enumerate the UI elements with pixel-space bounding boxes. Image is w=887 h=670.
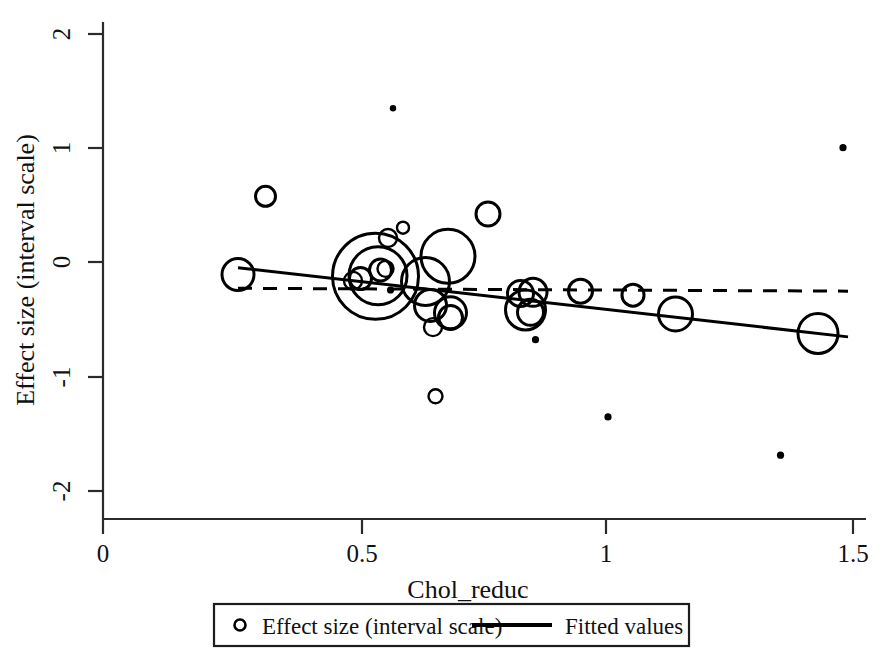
bubble-marker (604, 413, 611, 420)
bubble-marker (387, 286, 394, 293)
x-tick-label-0p5: 0.5 (346, 540, 377, 567)
bubble-marker (390, 105, 396, 111)
y-tick-label-0: 0 (48, 256, 75, 269)
chart-background (0, 0, 887, 670)
x-tick-label-1p5: 1.5 (837, 540, 868, 567)
legend-label-effect-size: Effect size (interval scale) (262, 614, 502, 639)
legend-label-fitted-values: Fitted values (565, 614, 683, 639)
y-tick-label-neg1: -1 (48, 367, 75, 388)
bubble-scatter-chart: 2 1 0 -1 -2 Effect size (interval scale)… (0, 0, 887, 670)
x-axis-title: Chol_reduc (407, 575, 528, 604)
x-tick-label-1: 1 (600, 540, 613, 567)
chart-canvas: 2 1 0 -1 -2 Effect size (interval scale)… (0, 0, 887, 670)
y-tick-label-2: 2 (48, 28, 75, 41)
bubble-marker (839, 144, 846, 151)
y-axis-title: Effect size (interval scale) (11, 134, 40, 406)
bubble-marker (777, 452, 784, 459)
x-tick-label-0: 0 (97, 540, 110, 567)
y-tick-label-1: 1 (48, 142, 75, 155)
y-tick-label-neg2: -2 (48, 481, 75, 502)
bubble-marker (532, 336, 539, 343)
